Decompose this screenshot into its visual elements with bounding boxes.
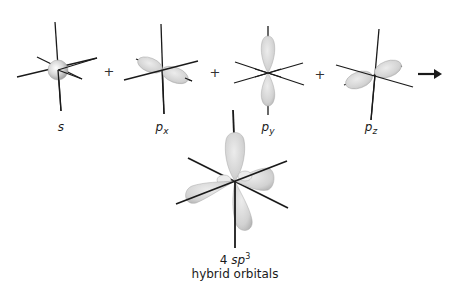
label-py-symbol: p: [262, 120, 270, 134]
hybrid-symbol: sp: [231, 253, 245, 267]
pz-orbital: [336, 29, 413, 120]
label-s: s: [58, 120, 64, 134]
orbital-hybridization-diagram: [0, 0, 461, 292]
hybrid-count: 4: [220, 253, 228, 267]
label-pz-subscript: z: [372, 126, 377, 136]
label-pz: pz: [365, 120, 377, 136]
plus-operator-3: +: [315, 67, 326, 82]
label-px-symbol: p: [156, 120, 164, 134]
label-px-subscript: x: [163, 126, 168, 136]
label-pz-symbol: p: [365, 120, 373, 134]
arrow-icon: [418, 69, 442, 79]
hybrid-count-line: 4 sp3: [192, 250, 279, 267]
py-orbital: [234, 26, 304, 115]
label-px: px: [156, 120, 169, 136]
hybrid-superscript: 3: [245, 252, 250, 261]
hybrid-caption: 4 sp3 hybrid orbitals: [192, 250, 279, 281]
px-orbital: [124, 24, 198, 114]
label-py-subscript: y: [269, 126, 274, 136]
s-orbital: [17, 22, 97, 111]
plus-operator-2: +: [210, 65, 221, 80]
label-s-symbol: s: [58, 120, 64, 134]
plus-operator-1: +: [104, 64, 115, 79]
label-py: py: [262, 120, 275, 136]
hybrid-description: hybrid orbitals: [192, 267, 279, 281]
